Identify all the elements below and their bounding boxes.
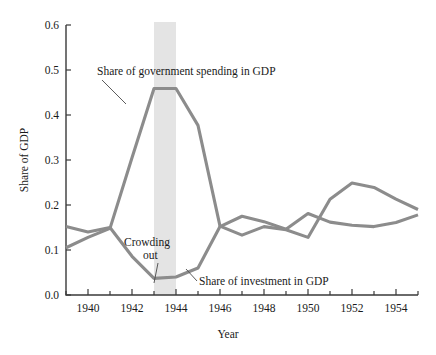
y-tick-label: 0.3 <box>45 154 60 166</box>
x-tick-label: 1944 <box>165 302 188 314</box>
y-tick-label: 0.0 <box>45 289 60 301</box>
line-chart: 0.00.10.20.30.40.50.61940194219441946194… <box>0 0 436 355</box>
x-tick-label: 1948 <box>253 302 276 314</box>
x-tick-label: 1952 <box>341 302 364 314</box>
y-tick-label: 0.6 <box>45 19 60 31</box>
y-tick-label: 0.2 <box>45 199 60 211</box>
annotation-investment: Share of investment in GDP <box>199 275 329 287</box>
x-tick-label: 1946 <box>209 302 232 314</box>
y-axis-title: Share of GDP <box>18 128 30 193</box>
x-tick-label: 1954 <box>385 302 408 314</box>
y-tick-label: 0.4 <box>45 109 60 121</box>
annotation-crowding-out-line1: Crowding <box>124 236 170 249</box>
annotation-government-spending: Share of government spending in GDP <box>97 65 276 78</box>
y-tick-label: 0.5 <box>45 64 60 76</box>
y-tick-label: 0.1 <box>45 244 60 256</box>
x-tick-label: 1950 <box>297 302 320 314</box>
x-axis-title: Year <box>217 328 238 340</box>
annotation-crowding-out-line2: out <box>143 249 159 261</box>
x-tick-label: 1942 <box>121 302 144 314</box>
x-tick-label: 1940 <box>77 302 100 314</box>
